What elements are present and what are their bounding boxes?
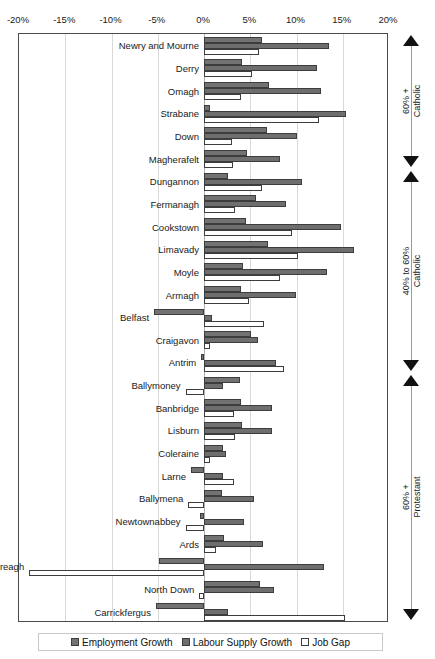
chart-row: Dungannon [19,170,387,193]
legend-swatch-icon [182,638,190,646]
bar-employment-growth [191,467,204,473]
bar-job-gap [204,139,232,145]
chart-row: Ards [19,532,387,555]
annotation-label-line: 60% + [401,477,412,518]
bar-labour-supply-growth [204,564,324,570]
annotation-group: 60% +Protestant [388,373,435,622]
bar-job-gap [204,207,235,213]
category-label: Belfast [120,312,149,323]
category-label: Magherafelt [149,153,199,164]
arrow-up-icon [403,171,419,182]
bar-job-gap [204,230,292,236]
category-label: Coleraine [158,448,199,459]
x-tick-label: 5% [242,14,256,25]
arrow-down-icon [403,609,419,620]
chart-row: Castlereagh [19,555,387,578]
bar-job-gap [204,366,284,372]
chart-row: Derry [19,57,387,80]
chart-row: Carrickfergus [19,600,387,623]
legend-label: Job Gap [312,637,350,648]
category-label: Limavady [158,244,199,255]
legend-item[interactable]: Labour Supply Growth [182,637,293,648]
arrow-down-icon [403,156,419,167]
bar-job-gap [199,593,204,599]
category-label: Armagh [166,289,199,300]
category-label: Strabane [160,108,199,119]
bar-job-gap [29,570,204,576]
category-label: Cookstown [152,221,199,232]
chart-row: Magherafelt [19,147,387,170]
bar-job-gap [204,275,280,281]
horizontal-bar-chart: -20%-15%-10%-5%0%5%10%15%20% Newry and M… [0,0,435,659]
chart-row: Lisburn [19,419,387,442]
bar-job-gap [204,71,252,77]
chart-row: Down [19,125,387,148]
annotation-label-line: Catholic [412,85,423,118]
bar-job-gap [188,502,204,508]
chart-row: Fermanagh [19,193,387,216]
annotation-label: 60% +Protestant [401,477,423,518]
bar-labour-supply-growth [204,519,244,525]
x-tick-label: -20% [7,14,29,25]
category-label: Newry and Mourne [119,40,199,51]
x-tick-label: -5% [148,14,165,25]
chart-row: Limavady [19,238,387,261]
category-label: Ballymena [139,493,183,504]
bar-job-gap [204,185,262,191]
chart-row: North Down [19,578,387,601]
bar-labour-supply-growth [204,383,223,389]
category-label: Ards [179,538,199,549]
chart-row: Craigavon [19,329,387,352]
category-label: Fermanagh [150,198,199,209]
category-label: Newtownabbey [116,516,181,527]
bar-job-gap [204,547,216,553]
bar-job-gap [204,49,259,55]
x-tick-label: -15% [53,14,75,25]
legend-label: Labour Supply Growth [193,637,293,648]
group-annotations: 60% +Catholic40% to 60%Catholic60% +Prot… [388,33,435,622]
bar-job-gap [204,479,234,485]
chart-row: Belfast [19,306,387,329]
x-tick-label: -10% [99,14,121,25]
bar-job-gap [204,411,234,417]
bar-job-gap [204,162,233,168]
chart-row: Armagh [19,283,387,306]
category-label: Omagh [168,85,199,96]
legend-item[interactable]: Job Gap [301,637,350,648]
annotation-label-line: 40% to 60% [401,247,412,296]
legend-swatch-icon [71,638,79,646]
bar-job-gap [204,298,249,304]
category-label: Down [175,130,199,141]
x-axis-tick-labels: -20%-15%-10%-5%0%5%10%15%20% [0,14,435,30]
category-label: Moyle [174,266,199,277]
bar-job-gap [204,321,264,327]
category-label: Antrim [169,357,196,368]
category-label: Larne [162,470,186,481]
bar-job-gap [204,117,319,123]
bar-labour-supply-growth [204,337,258,343]
legend-label: Employment Growth [82,637,173,648]
bar-job-gap [204,615,345,621]
category-label: Carrickfergus [94,606,151,617]
chart-row: Newtownabbey [19,510,387,533]
legend-item[interactable]: Employment Growth [71,637,173,648]
bar-job-gap [204,343,210,349]
x-tick-label: 10% [286,14,305,25]
annotation-label: 60% +Catholic [401,85,423,118]
bar-employment-growth [154,309,204,315]
bar-employment-growth [156,603,204,609]
annotation-label-line: Catholic [412,247,423,296]
bar-employment-growth [159,558,204,564]
category-label: Dungannon [150,176,199,187]
x-tick-label: 20% [378,14,397,25]
category-label: Derry [176,62,199,73]
x-tick-label: 0% [196,14,210,25]
category-label: Banbridge [156,402,199,413]
plot-area: Newry and MourneDerryOmaghStrabaneDownMa… [18,33,388,622]
arrow-up-icon [403,35,419,46]
bar-job-gap [186,525,205,531]
bar-job-gap [204,457,210,463]
bar-job-gap [204,253,298,259]
bar-job-gap [186,389,205,395]
chart-row: Banbridge [19,396,387,419]
